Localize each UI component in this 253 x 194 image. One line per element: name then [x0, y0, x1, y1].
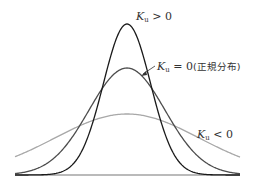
label-kurtosis-negative: Ku < 0 — [197, 129, 233, 142]
normal-distribution-note: (正規分布) — [193, 61, 240, 72]
label-kurtosis-positive: Ku > 0 — [136, 11, 172, 24]
pointer-arrow-head — [141, 71, 147, 76]
curve-kurtosis-positive — [15, 24, 240, 175]
label-kurtosis-zero-normal: Ku = 0(正規分布) — [157, 61, 240, 74]
curve-kurtosis-zero-normal — [15, 68, 240, 174]
kurtosis-diagram — [0, 0, 253, 194]
